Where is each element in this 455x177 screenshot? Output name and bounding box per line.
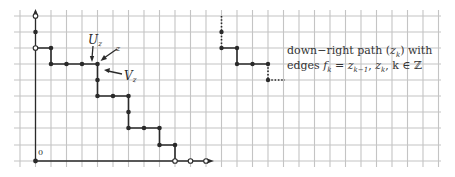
origin-label: 0: [38, 148, 43, 157]
grid: [14, 10, 441, 167]
V-label: Vz: [124, 69, 137, 84]
origin-point: [33, 159, 38, 164]
lattice-diagram: Uz z Vz 0: [0, 0, 455, 177]
V-arrow: [108, 71, 122, 74]
V-arrow-head-icon: [104, 68, 110, 73]
U-label: Uz: [88, 33, 102, 48]
down-right-path-left: [33, 14, 208, 164]
z-label: z: [115, 44, 121, 53]
caption-line-2: edges fk = zk−1, zk, k ∈ ℤ: [287, 59, 422, 77]
U-arrow-head-icon: [90, 56, 94, 62]
